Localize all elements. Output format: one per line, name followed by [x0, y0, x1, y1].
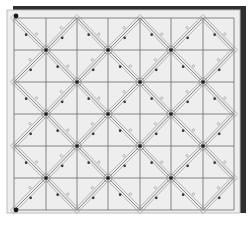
arrow-marker [61, 37, 64, 40]
lattice-diagram [0, 0, 249, 225]
arrow-marker [92, 197, 95, 200]
arrow-marker [155, 69, 158, 72]
arrow-marker [213, 33, 216, 36]
node-dot [106, 176, 110, 180]
arrow-marker [150, 97, 153, 100]
arrow-marker [123, 37, 126, 40]
arrow-marker [182, 129, 185, 132]
arrow-marker [25, 97, 28, 100]
arrow-marker [155, 133, 158, 136]
bottom-left-anchor-icon [14, 208, 19, 213]
arrow-marker [213, 97, 216, 100]
node-dot [106, 112, 110, 116]
arrow-marker [119, 193, 122, 196]
arrow-marker [123, 101, 126, 104]
arrow-marker [25, 33, 28, 36]
arrow-marker [182, 193, 185, 196]
arrow-marker [186, 101, 189, 104]
arrow-marker [186, 165, 189, 168]
node-dot [106, 48, 110, 52]
arrow-marker [56, 129, 59, 132]
arrow-marker [87, 97, 90, 100]
arrow-marker [119, 129, 122, 132]
arrow-marker [218, 69, 221, 72]
node-dot [75, 144, 79, 148]
arrow-marker [87, 161, 90, 164]
node-dot [169, 176, 173, 180]
diagram-canvas [0, 0, 249, 225]
node-dot [201, 144, 205, 148]
arrow-marker [29, 197, 32, 200]
arrow-marker [29, 133, 32, 136]
arrow-marker [92, 69, 95, 72]
node-dot [44, 176, 48, 180]
arrow-marker [92, 133, 95, 136]
node-dot [169, 48, 173, 52]
arrow-marker [155, 197, 158, 200]
arrow-marker [150, 33, 153, 36]
node-dot [44, 48, 48, 52]
arrow-marker [56, 193, 59, 196]
node-dot [138, 80, 142, 84]
node-dot [44, 112, 48, 116]
node-dot [138, 144, 142, 148]
node-dot [169, 112, 173, 116]
arrow-marker [213, 161, 216, 164]
arrow-marker [186, 37, 189, 40]
arrow-marker [61, 165, 64, 168]
arrow-marker [218, 133, 221, 136]
arrow-marker [182, 65, 185, 68]
arrow-marker [150, 161, 153, 164]
arrow-marker [218, 197, 221, 200]
arrow-marker [25, 161, 28, 164]
top-left-anchor-icon [14, 14, 19, 19]
arrow-marker [61, 101, 64, 104]
arrow-marker [119, 65, 122, 68]
node-dot [75, 80, 79, 84]
arrow-marker [123, 165, 126, 168]
arrow-marker [29, 69, 32, 72]
node-dot [201, 80, 205, 84]
arrow-marker [87, 33, 90, 36]
arrow-marker [56, 65, 59, 68]
